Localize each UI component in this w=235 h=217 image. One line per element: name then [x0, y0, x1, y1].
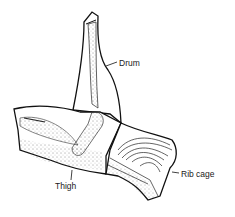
- thigh-leader: [71, 170, 72, 180]
- label-rib-cage: Rib cage: [181, 170, 215, 179]
- label-drum: Drum: [119, 59, 140, 68]
- rib-leader: [172, 172, 179, 173]
- drum-leader: [106, 62, 117, 66]
- label-thigh: Thigh: [55, 182, 76, 191]
- poultry-cut-illustration: [0, 0, 235, 217]
